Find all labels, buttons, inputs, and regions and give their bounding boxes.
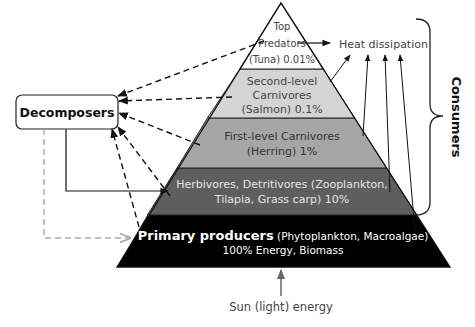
- layer-first-level-carnivores: [177, 118, 387, 168]
- svg-text:Second-level: Second-level: [247, 75, 318, 88]
- top-predators-line3: (Tuna) 0.01%: [249, 54, 315, 65]
- sun-energy: Sun (light) energy: [229, 270, 333, 314]
- primary-producers-title: Primary producers: [138, 228, 274, 243]
- primary-producers-energy: 100% Energy, Biomass: [223, 244, 344, 256]
- svg-text:(Salmon) 0.1%: (Salmon) 0.1%: [241, 103, 322, 116]
- second-level-line2: Carnivores: [253, 89, 312, 102]
- second-level-line1: Second-level: [247, 75, 318, 88]
- first-level-line1: First-level Carnivores: [224, 130, 340, 143]
- decomposers-box: Decomposers: [16, 95, 118, 129]
- svg-text:(Herring) 1%: (Herring) 1%: [247, 145, 317, 158]
- heat-dissipation-label: Heat dissipation: [339, 38, 428, 51]
- svg-text:Herbivores, Detritivores (Zoop: Herbivores, Detritivores (Zooplankton,: [176, 178, 388, 191]
- second-level-line3: (Salmon) 0.1%: [241, 103, 322, 116]
- sun-energy-label: Sun (light) energy: [229, 300, 333, 314]
- top-predators-line1: Top: [273, 21, 291, 32]
- svg-text:100% Energy, Biomass: 100% Energy, Biomass: [223, 244, 344, 256]
- nutrient-recycle-arrow: [66, 129, 168, 191]
- svg-text:First-level Carnivores: First-level Carnivores: [224, 130, 340, 143]
- svg-text:Carnivores: Carnivores: [253, 89, 312, 102]
- svg-text:Tilapia, Grass carp) 10%: Tilapia, Grass carp) 10%: [214, 193, 349, 206]
- herbivores-line1: Herbivores, Detritivores (Zooplankton,: [176, 178, 388, 191]
- consumers-label: Consumers: [449, 76, 464, 157]
- layer-herbivores: [147, 168, 416, 215]
- first-level-line2: (Herring) 1%: [247, 145, 317, 158]
- svg-text:Primary producers (Phytoplankt: Primary producers (Phytoplankton, Macroa…: [138, 228, 429, 243]
- svg-text:(Tuna) 0.01%: (Tuna) 0.01%: [249, 54, 315, 65]
- svg-text:Top: Top: [273, 21, 291, 32]
- primary-producers-examples: (Phytoplankton, Macroalgae): [274, 230, 429, 242]
- herbivores-line2: Tilapia, Grass carp) 10%: [214, 193, 349, 206]
- decomposers-label: Decomposers: [20, 105, 115, 120]
- food-pyramid-diagram: Top Predators (Tuna) 0.01% Second-level …: [0, 0, 475, 327]
